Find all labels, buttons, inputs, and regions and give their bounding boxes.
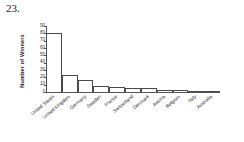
bar [78, 80, 94, 92]
x-axis-category-labels: United StatesUnited KingdomGermanySweden… [46, 94, 244, 142]
bar [62, 75, 78, 92]
bar [46, 33, 62, 92]
bar [141, 88, 157, 92]
bar [125, 88, 141, 92]
bar [109, 87, 125, 92]
problem-number: 23. [6, 2, 20, 14]
bar [93, 86, 109, 92]
plot-area [46, 26, 220, 92]
bar [173, 90, 189, 92]
bar [157, 90, 173, 92]
y-axis-tick-labels: 9080706050403020100 [35, 26, 45, 92]
bar [188, 91, 204, 92]
y-axis-title: Number of Winners [19, 33, 25, 89]
bar-chart-figure: Number of Winners 9080706050403020100 Un… [0, 18, 244, 142]
bar [204, 91, 220, 92]
x-axis-line [46, 92, 220, 93]
